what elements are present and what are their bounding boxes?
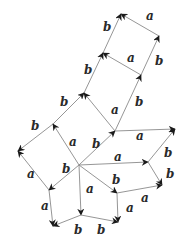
cayley-graph: abbabbabbabaabbabaabbbaa xyxy=(0,0,187,246)
edge-label: a xyxy=(114,150,122,164)
edges-group xyxy=(18,14,175,226)
edge-label: b xyxy=(135,95,143,109)
edge-label: a xyxy=(69,135,77,149)
edge-label: a xyxy=(27,167,35,181)
edge-b-arrow-icon xyxy=(148,162,162,185)
edge-a-arrow-icon xyxy=(117,193,118,222)
edge-label: b xyxy=(103,20,111,34)
edge-a-arrow-icon xyxy=(79,165,81,215)
edge-label: a xyxy=(41,199,49,213)
edge-label: b xyxy=(31,119,39,133)
edge-b-arrow-icon xyxy=(81,215,118,222)
edge-label: a xyxy=(126,201,134,215)
edge-label: b xyxy=(74,223,82,237)
edge-b-arrow-icon xyxy=(53,93,84,124)
edge-a-arrow-icon xyxy=(117,185,162,193)
edge-label: a xyxy=(141,191,149,205)
edge-a-arrow-icon xyxy=(103,53,141,75)
edge-label: a xyxy=(136,129,144,143)
edge-label: a xyxy=(127,51,135,65)
edge-label: b xyxy=(62,162,70,176)
edge-label: b xyxy=(92,137,100,151)
edge-a-arrow-icon xyxy=(49,190,53,226)
edge-label: b xyxy=(155,54,163,68)
edge-label: b xyxy=(166,167,174,181)
edge-label: a xyxy=(146,9,154,23)
edge-label: b xyxy=(97,223,105,237)
edge-label: b xyxy=(164,146,172,160)
labels-group: abbabbabbabaabbabaabbbaa xyxy=(27,9,174,237)
edge-label: a xyxy=(86,182,94,196)
edge-label: b xyxy=(112,173,120,187)
edge-a-arrow-icon xyxy=(115,129,175,131)
edge-label: b xyxy=(84,63,92,77)
edge-label: b xyxy=(60,95,68,109)
edge-label: a xyxy=(111,103,119,117)
